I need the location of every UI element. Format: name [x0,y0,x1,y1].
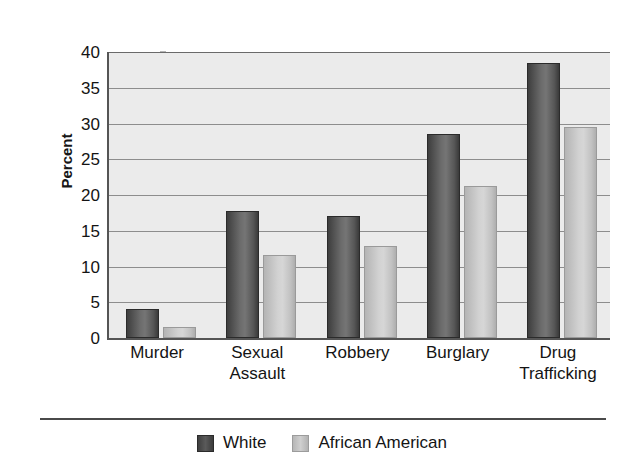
y-tick-label: 40 [58,44,100,61]
bar [126,309,159,338]
x-tick-label: SexualAssault [207,342,307,384]
bar [263,255,296,338]
y-tick-label: 5 [58,294,100,311]
y-tick-label: 30 [58,115,100,132]
bar-chart: Percent 0510152025303540 MurderSexualAss… [0,0,644,469]
x-axis-tick-labels: MurderSexualAssaultRobberyBurglaryDrugTr… [107,342,608,400]
bar [163,327,196,338]
bar [226,211,259,338]
bar [464,186,497,338]
y-tick-label: 15 [58,222,100,239]
gridline [109,52,610,53]
x-tick-label-line: Burglary [408,342,508,363]
x-tick-label: Robbery [307,342,407,363]
legend-label: African American [318,433,447,453]
bar [427,134,460,338]
y-axis-tick-labels: 0510152025303540 [58,52,100,338]
x-tick-label-line: Trafficking [508,363,608,384]
y-tick-label: 20 [58,187,100,204]
legend-item: White [197,433,266,453]
bar [327,216,360,338]
legend-swatch-icon [197,435,214,452]
y-tick-label: 10 [58,258,100,275]
bar [364,246,397,338]
legend-swatch-icon [292,435,309,452]
x-tick-label-line: Sexual [207,342,307,363]
bar [564,127,597,338]
x-tick-label-line: Drug [508,342,608,363]
y-tick-label: 0 [58,330,100,347]
bar [527,63,560,338]
y-tick-label: 35 [58,79,100,96]
y-tick-label: 25 [58,151,100,168]
x-tick-label: DrugTrafficking [508,342,608,384]
plot-area [107,52,610,340]
legend-item: African American [292,433,447,453]
x-tick-label-line: Murder [107,342,207,363]
x-tick-label: Murder [107,342,207,363]
x-tick-label-line: Robbery [307,342,407,363]
legend: WhiteAfrican American [0,430,644,456]
legend-divider [40,418,606,420]
x-tick-label: Burglary [408,342,508,363]
x-tick-label-line: Assault [207,363,307,384]
legend-label: White [223,433,266,453]
